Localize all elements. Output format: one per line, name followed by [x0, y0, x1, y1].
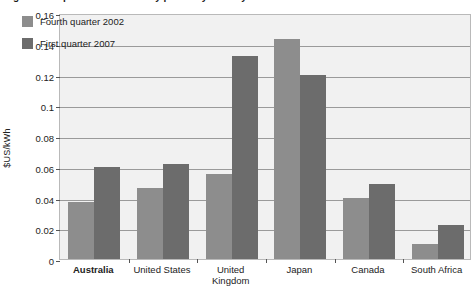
bar — [274, 39, 300, 259]
bar — [412, 244, 438, 259]
bar-group — [206, 15, 258, 259]
x-tick-mark — [129, 259, 130, 263]
bar — [300, 75, 326, 260]
chart-legend: Fourth quarter 2002 First quarter 2007 — [22, 10, 124, 54]
x-category-label-line: Canada — [334, 264, 403, 275]
bar — [369, 184, 395, 259]
y-tick-label: 0.12 — [36, 71, 55, 82]
y-tick-label: 0.08 — [36, 133, 55, 144]
bar — [232, 56, 258, 259]
chart-figure: Figure: Comparison of electricity prices… — [0, 0, 476, 305]
y-tick-label: 0.04 — [36, 194, 55, 205]
x-category-label: South Africa — [402, 264, 471, 275]
y-tick-mark — [56, 261, 60, 262]
chart-title-clipped: Figure: Comparison of electricity prices… — [0, 0, 476, 5]
y-tick-label: 0.1 — [41, 102, 54, 113]
x-category-label-line: South Africa — [402, 264, 471, 275]
bar-group — [412, 15, 464, 259]
bar — [206, 174, 232, 259]
x-category-label: United States — [128, 264, 197, 275]
x-category-label-line: Kingdom — [196, 275, 265, 286]
y-tick-label: 0.06 — [36, 163, 55, 174]
x-tick-mark — [266, 259, 267, 263]
y-tick-label: 0 — [49, 256, 54, 267]
bar — [68, 202, 94, 259]
x-tick-mark — [197, 259, 198, 263]
y-axis-title: $US/kWh — [2, 108, 12, 188]
bar — [94, 167, 120, 259]
legend-swatch-icon-series-1 — [22, 38, 33, 49]
x-category-label: Australia — [59, 264, 128, 275]
legend-label-series-0: Fourth quarter 2002 — [40, 16, 124, 27]
x-category-label-line: Australia — [59, 264, 128, 275]
chart-title-text: Figure: Comparison of electricity prices… — [0, 0, 476, 3]
bar — [343, 198, 369, 260]
bar — [163, 164, 189, 259]
bar-group — [343, 15, 395, 259]
legend-item-fourth-quarter-2002: Fourth quarter 2002 — [22, 10, 124, 32]
y-tick-label: 0.02 — [36, 225, 55, 236]
x-category-label-line: United — [196, 264, 265, 275]
x-category-label-line: Japan — [265, 264, 334, 275]
legend-label-series-1: First quarter 2007 — [40, 38, 115, 49]
legend-swatch-icon-series-0 — [22, 16, 33, 27]
bar — [438, 225, 464, 259]
x-category-label: UnitedKingdom — [196, 264, 265, 286]
x-tick-mark — [403, 259, 404, 263]
legend-item-first-quarter-2007: First quarter 2007 — [22, 32, 124, 54]
bar — [137, 188, 163, 259]
x-category-label: Japan — [265, 264, 334, 275]
bar-group — [137, 15, 189, 259]
x-category-label: Canada — [334, 264, 403, 275]
x-axis-labels: AustraliaUnited StatesUnitedKingdomJapan… — [59, 264, 471, 304]
x-tick-mark — [335, 259, 336, 263]
bar-group — [274, 15, 326, 259]
x-category-label-line: United States — [128, 264, 197, 275]
